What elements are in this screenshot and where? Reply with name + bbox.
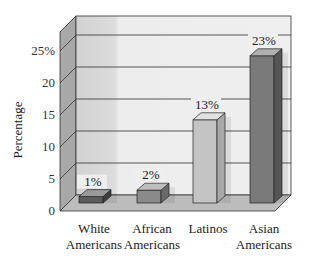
x-axis-categories: WhiteAmericansAfricanAmericansLatinosAsi… — [66, 221, 292, 252]
y-tick-label: 15 — [42, 107, 55, 122]
data-label: 2% — [142, 167, 160, 182]
bar: 23% — [248, 33, 288, 203]
y-tick-label: 5 — [49, 171, 56, 186]
data-label: 1% — [84, 174, 102, 189]
y-tick-label: 25% — [31, 43, 55, 58]
category-label: Americans — [124, 237, 180, 252]
y-tick-label: 10 — [42, 139, 55, 154]
category-label: Americans — [66, 237, 122, 252]
y-tick-label: 0 — [49, 203, 56, 218]
category-label: White — [78, 221, 110, 236]
category-label: Latinos — [189, 221, 228, 236]
category-label: Asian — [249, 221, 280, 236]
category-label: Americans — [236, 237, 292, 252]
y-axis-label: Percentage — [10, 101, 25, 158]
data-label: 13% — [195, 97, 219, 112]
data-label: 23% — [252, 33, 276, 48]
category-label: African — [132, 221, 172, 236]
y-tick-label: 20 — [42, 75, 55, 90]
y-axis-ticks: 0510152025% — [31, 43, 55, 218]
side-wall — [60, 16, 76, 211]
bar-chart: 0510152025% 1%2%13%23% WhiteAmericansAfr… — [0, 0, 309, 266]
